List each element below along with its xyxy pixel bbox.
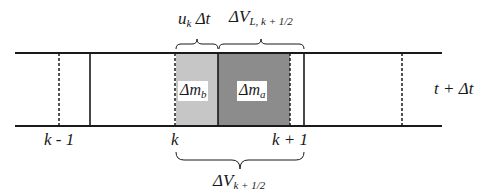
label-uk-dt: uk Δt <box>178 10 210 29</box>
label-node-k-minus-1: k - 1 <box>44 131 74 148</box>
dma-sub: a <box>260 88 266 100</box>
dvl-sub: L, k + 1/2 <box>249 15 292 27</box>
uk-main: u <box>178 9 187 28</box>
dv-main: ΔV <box>213 171 233 190</box>
label-node-k: k <box>171 131 179 148</box>
brace-uk-dt <box>176 39 218 49</box>
brace-dvl <box>219 39 304 49</box>
dvl-main: ΔV <box>229 7 249 26</box>
brace-dv-bottom <box>176 152 304 169</box>
label-dvl: ΔVL, k + 1/2 <box>229 8 293 27</box>
dma-main: Δm <box>239 81 260 98</box>
uk-tail: Δt <box>191 9 210 28</box>
label-delta-m-b: Δmb <box>178 81 208 101</box>
label-time: t + Δt <box>434 80 473 97</box>
label-delta-m-a: Δma <box>237 81 267 101</box>
label-dv-bottom: ΔVk + 1/2 <box>213 172 265 191</box>
dmb-main: Δm <box>180 81 201 98</box>
dv-sub: k + 1/2 <box>233 179 265 191</box>
dmb-sub: b <box>201 88 207 100</box>
label-node-k-plus-1: k + 1 <box>272 131 308 148</box>
